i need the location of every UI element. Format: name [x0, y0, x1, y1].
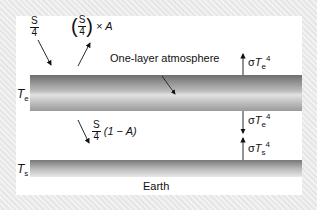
reflected-arrow [78, 43, 90, 66]
earth-label: Earth [143, 181, 169, 192]
absorbed-surface-arrow [78, 120, 89, 143]
reflected-label: (S4) × A [71, 15, 113, 37]
flux-up-atm-label: σTe4 [248, 55, 270, 71]
arrows-overlay [0, 0, 317, 210]
absorbed-surface-label: S4 (1 − A) [92, 120, 137, 142]
atmosphere-pointer [162, 76, 175, 94]
atmosphere-temp-label: Te [17, 88, 29, 103]
incoming-solar-label: S4 [30, 16, 39, 38]
atmosphere-label: One-layer atmosphere [110, 53, 219, 64]
surface-temp-label: Ts [17, 163, 28, 178]
incoming-solar-arrow [38, 40, 51, 65]
flux-down-atm-label: σTe4 [248, 113, 270, 129]
flux-up-surface-label: σTs4 [248, 141, 270, 157]
